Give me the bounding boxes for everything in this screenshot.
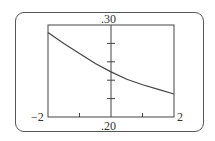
y-max-label: .30: [101, 13, 116, 25]
x-min-label: −2: [31, 111, 44, 123]
x-max-label: 2: [177, 111, 183, 123]
y-min-label: .20: [101, 120, 116, 132]
